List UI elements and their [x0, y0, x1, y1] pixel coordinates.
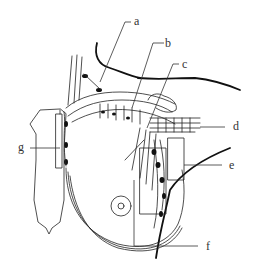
- axillary-chain: [160, 140, 164, 210]
- diagram-drawing: [0, 0, 255, 274]
- clavicle-hatching: [100, 104, 140, 124]
- shoulder-contour: [138, 78, 240, 90]
- subclavian-vessel: [72, 110, 175, 125]
- rib-divisions: [158, 118, 190, 132]
- label-d: d: [233, 120, 239, 132]
- label-f: f: [206, 240, 210, 252]
- breast-outline-2: [68, 172, 180, 249]
- label-g: g: [18, 141, 24, 153]
- node-group-box-e: [168, 138, 184, 180]
- lymph-vessels: [125, 128, 156, 190]
- label-c: c: [182, 58, 187, 70]
- neck-contour: [96, 43, 140, 78]
- lateral-chest-line: [156, 148, 230, 258]
- label-a: a: [134, 15, 139, 27]
- label-b: b: [165, 37, 171, 49]
- nipple: [118, 203, 124, 209]
- rib-lines: [150, 118, 200, 132]
- strand-1: [68, 56, 72, 105]
- label-e: e: [229, 159, 234, 171]
- strand-3: [79, 57, 82, 100]
- upper-arm-outline: [30, 109, 66, 234]
- strand-2: [74, 55, 77, 103]
- humerus-box: [56, 114, 62, 168]
- anatomical-diagram: a b c d e f g: [0, 0, 255, 274]
- areola: [111, 196, 131, 216]
- apical-node-vessel: [84, 74, 101, 90]
